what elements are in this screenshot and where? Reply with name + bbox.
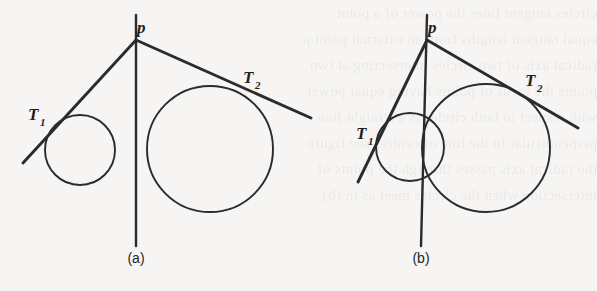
panel-b-right-tangent-line <box>427 40 578 128</box>
panel-b-large-circle <box>422 84 550 212</box>
panel-a-apex-label: p <box>135 18 146 37</box>
figure-container: circles tangent lines the power of a poi… <box>0 0 597 291</box>
panel-b-t1-label: T <box>356 124 367 143</box>
panel-a-t1-label: T <box>28 105 39 124</box>
panel-a-t2-subscript: 2 <box>254 79 261 91</box>
panel-a-large-circle <box>147 86 273 212</box>
panel-a-t1-subscript: 1 <box>40 116 46 128</box>
panel-a-left-tangent-line <box>23 40 136 163</box>
panel-a-right-tangent-line <box>136 40 311 118</box>
panel-a: p T 1 T 2 (a) <box>23 15 311 266</box>
geometry-diagram: p T 1 T 2 (a) p T 1 T 2 (b) <box>0 0 597 291</box>
panel-b-t2-subscript: 2 <box>536 82 543 94</box>
panel-b-t2-label: T <box>525 71 536 90</box>
panel-b-caption: (b) <box>412 250 429 266</box>
panel-b: p T 1 T 2 (b) <box>356 15 578 266</box>
panel-b-t1-subscript: 1 <box>368 135 374 147</box>
panel-a-caption: (a) <box>127 250 144 266</box>
panel-b-apex-label: p <box>426 18 437 37</box>
panel-b-left-tangent-line <box>358 40 427 182</box>
panel-a-t2-label: T <box>243 68 254 87</box>
